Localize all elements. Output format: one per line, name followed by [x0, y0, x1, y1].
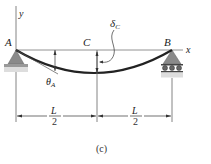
span-left-numerator: L: [50, 105, 57, 116]
point-c-label: C: [83, 36, 91, 48]
x-axis-label: x: [185, 44, 191, 55]
delta-leader: [100, 30, 114, 62]
span-left-denominator: 2: [52, 116, 57, 127]
span-right-numerator: L: [131, 105, 138, 116]
point-b-label: B: [164, 36, 171, 48]
theta-a-label: θA: [46, 76, 56, 89]
point-a-label: A: [4, 36, 12, 48]
deflected-beam: [16, 50, 172, 73]
pin-support-a: [4, 50, 28, 72]
beam-deflection-diagram: y x A C B θA δC: [0, 0, 211, 164]
figure-caption: (c): [96, 143, 107, 155]
delta-c-label: δC: [110, 17, 120, 31]
span-right-denominator: 2: [133, 116, 138, 127]
y-axis-label: y: [18, 8, 24, 19]
